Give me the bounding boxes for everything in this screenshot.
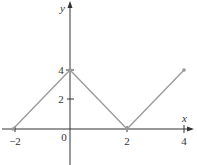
y-tick-label-2: 2 (58, 93, 64, 105)
function-line (13, 70, 184, 129)
data-point-marker (11, 127, 15, 131)
x-tick-label-2: 2 (124, 135, 130, 147)
data-point-marker (182, 68, 186, 72)
data-point-marker (125, 127, 129, 131)
piecewise-line-chart: y x −2 0 2 4 4 2 (0, 0, 197, 165)
data-point-marker (68, 68, 72, 72)
x-axis-arrow-icon (187, 127, 194, 132)
x-axis-label: x (181, 112, 187, 124)
x-tick-label-4: 4 (181, 135, 187, 147)
y-tick-label-4: 4 (58, 64, 64, 76)
y-axis-label: y (59, 2, 65, 14)
axes (2, 1, 194, 165)
x-tick-label-0: 0 (61, 131, 67, 143)
x-tick-label-neg2: −2 (9, 135, 21, 147)
y-axis-arrow-icon (68, 1, 73, 8)
